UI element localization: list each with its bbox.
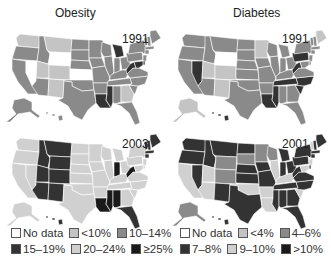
state-hi bbox=[52, 218, 55, 220]
legend-swatch bbox=[227, 244, 237, 254]
state-hi bbox=[224, 115, 229, 121]
legend-swatch bbox=[281, 244, 291, 254]
year-label: 1991 bbox=[122, 32, 149, 46]
state-wa bbox=[16, 34, 40, 48]
state-wa bbox=[16, 138, 40, 152]
state-ct bbox=[311, 50, 315, 54]
state-co bbox=[215, 169, 236, 184]
legend-item: 20–24% bbox=[71, 243, 125, 255]
state-co bbox=[49, 169, 70, 184]
state-co bbox=[215, 65, 236, 80]
legend-swatch bbox=[180, 228, 190, 238]
state-ar bbox=[93, 83, 108, 94]
state-nm bbox=[214, 183, 230, 202]
state-mt bbox=[44, 36, 72, 53]
state-nd bbox=[71, 143, 89, 154]
obesity-legend: No data <10% 10–14% 15–19% 20–24% ≥25% bbox=[11, 225, 179, 257]
state-mi bbox=[278, 44, 290, 58]
legend-item: 4–6% bbox=[280, 227, 321, 239]
legend-item: 9–10% bbox=[227, 243, 275, 255]
state-ne bbox=[70, 164, 92, 174]
state-ks bbox=[236, 173, 259, 184]
state-ma bbox=[145, 46, 154, 50]
state-ne bbox=[70, 60, 92, 70]
state-wi bbox=[267, 42, 278, 57]
state-in bbox=[114, 58, 120, 73]
state-in bbox=[114, 162, 120, 177]
legend-item: ≥25% bbox=[131, 243, 172, 255]
state-hi bbox=[212, 216, 214, 218]
legend-item: >10% bbox=[281, 243, 323, 255]
state-or bbox=[178, 150, 205, 165]
state-nd bbox=[237, 39, 255, 50]
legend-swatch bbox=[131, 244, 141, 254]
state-hi bbox=[212, 112, 214, 114]
state-ks bbox=[236, 69, 259, 80]
state-fl bbox=[281, 102, 306, 125]
state-in bbox=[280, 58, 286, 73]
state-wa bbox=[182, 34, 206, 48]
diabetes-column-title: Diabetes bbox=[233, 6, 280, 20]
state-sd bbox=[71, 154, 89, 165]
year-label: 1991 bbox=[282, 32, 309, 46]
state-ak bbox=[172, 98, 206, 122]
state-al bbox=[113, 86, 121, 104]
state-ma bbox=[311, 150, 320, 154]
state-nd bbox=[71, 39, 89, 50]
state-ks bbox=[70, 173, 93, 184]
year-label: 2001 bbox=[282, 137, 309, 151]
state-wi bbox=[267, 146, 278, 161]
state-ct bbox=[145, 50, 149, 54]
legend-swatch bbox=[180, 244, 190, 254]
state-me bbox=[316, 134, 327, 148]
state-hi bbox=[218, 218, 221, 220]
diabetes-legend: No data <4% 4–6% 7–8% 9–10% >10% bbox=[180, 225, 329, 257]
state-al bbox=[279, 86, 287, 104]
state-ne bbox=[236, 164, 258, 174]
legend-swatch bbox=[71, 244, 81, 254]
state-ak bbox=[172, 202, 206, 226]
state-hi bbox=[52, 114, 55, 116]
legend-item: 7–8% bbox=[180, 243, 221, 255]
state-wi bbox=[101, 42, 112, 57]
state-al bbox=[113, 190, 121, 208]
legend-item: No data bbox=[11, 227, 63, 239]
state-hi bbox=[46, 216, 48, 218]
legend-swatch bbox=[69, 228, 79, 238]
state-mt bbox=[44, 140, 72, 157]
year-label: 2003 bbox=[122, 137, 149, 151]
state-md bbox=[300, 61, 309, 68]
state-ut bbox=[36, 165, 49, 182]
state-mt bbox=[210, 36, 238, 53]
state-ct bbox=[145, 154, 149, 158]
state-ma bbox=[311, 46, 320, 50]
state-ks bbox=[70, 69, 93, 80]
state-nm bbox=[214, 79, 230, 98]
state-wy bbox=[215, 156, 237, 170]
state-sd bbox=[237, 50, 255, 61]
state-nm bbox=[48, 79, 64, 98]
obesity-column-title: Obesity bbox=[55, 6, 96, 20]
state-ut bbox=[202, 61, 215, 78]
state-ar bbox=[93, 187, 108, 198]
state-mt bbox=[210, 140, 238, 157]
state-or bbox=[178, 46, 205, 61]
state-ut bbox=[202, 165, 215, 182]
state-co bbox=[49, 65, 70, 80]
state-sd bbox=[71, 50, 89, 61]
legend-item: <4% bbox=[238, 227, 273, 239]
state-ar bbox=[259, 187, 274, 198]
state-hi bbox=[218, 114, 221, 116]
legend-swatch bbox=[238, 228, 248, 238]
state-hi bbox=[46, 112, 48, 114]
state-ar bbox=[259, 83, 274, 94]
state-me bbox=[150, 30, 161, 44]
state-me bbox=[150, 134, 161, 148]
legend-item: 10–14% bbox=[117, 227, 171, 239]
state-or bbox=[12, 46, 39, 61]
state-ut bbox=[36, 61, 49, 78]
legend-item: <10% bbox=[69, 227, 111, 239]
legend-swatch bbox=[117, 228, 127, 238]
state-al bbox=[279, 190, 287, 208]
state-wy bbox=[49, 52, 71, 66]
